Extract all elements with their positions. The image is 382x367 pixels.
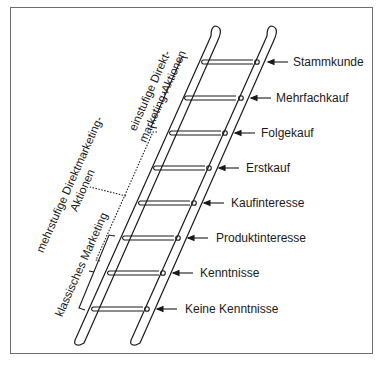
rung-produktinteresse bbox=[123, 236, 209, 241]
step-label-kaufinteresse: Kaufinteresse bbox=[231, 196, 304, 210]
step-label-kenntnisse: Kenntnisse bbox=[200, 266, 259, 280]
step-label-keine-kenntnisse: Keine Kenntnisse bbox=[185, 302, 278, 316]
rung-stammkunde bbox=[202, 60, 289, 65]
step-label-produktinteresse: Produktinteresse bbox=[216, 231, 306, 245]
rung-keine-kenntnisse bbox=[92, 307, 178, 312]
bracket-mehrstufig-leader bbox=[90, 187, 126, 196]
step-label-erstkauf: Erstkauf bbox=[246, 161, 290, 175]
rung-folgekauf bbox=[170, 131, 256, 136]
rung-mehrfachkauf bbox=[185, 96, 272, 101]
ladder-left-rail bbox=[75, 26, 221, 345]
rung-kaufinteresse bbox=[139, 201, 225, 206]
rung-kenntnisse bbox=[108, 271, 194, 276]
bracket-klassisch-tick bbox=[89, 271, 94, 272]
step-label-mehrfachkauf: Mehrfachkauf bbox=[276, 91, 349, 105]
step-label-stammkunde: Stammkunde bbox=[293, 55, 364, 69]
step-label-folgekauf: Folgekauf bbox=[261, 126, 314, 140]
rung-erstkauf bbox=[154, 166, 240, 171]
